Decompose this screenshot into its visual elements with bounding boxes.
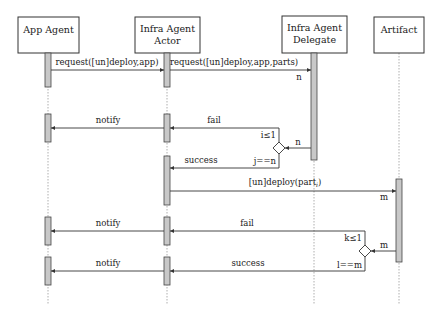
svg-text:n: n: [295, 137, 301, 147]
participant-label: App Agent: [22, 24, 74, 35]
activation-bar: [45, 257, 51, 285]
sequence-diagram: App Agent Infra Agent Actor Infra Agent …: [0, 0, 443, 318]
svg-text:m: m: [380, 240, 388, 250]
participant-label-line2: Actor: [153, 35, 181, 46]
decision-diamond: [359, 245, 371, 257]
activation-bar: [164, 114, 170, 142]
message-notify: notify: [51, 218, 164, 233]
decision-fail-success-delegate: fail i≤1 success j==n n: [170, 115, 311, 170]
svg-text:notify: notify: [96, 258, 121, 268]
participant-infra-agent-delegate: Infra Agent Delegate: [282, 16, 347, 53]
svg-text:m: m: [380, 192, 388, 202]
activation-bar: [45, 114, 51, 142]
svg-text:success: success: [184, 155, 217, 165]
svg-text:i≤1: i≤1: [261, 130, 276, 140]
message-request-deploy-app-parts: request([un]deploy,app,parts) n: [170, 57, 311, 82]
svg-text:request([un]deploy,app,parts): request([un]deploy,app,parts): [170, 57, 298, 67]
decision-fail-success-artifact: fail k≤1 success l==m m: [170, 218, 396, 273]
activation-bar: [311, 53, 317, 160]
participant-artifact: Artifact: [374, 17, 424, 53]
svg-text:[un]deploy(parti): [un]deploy(parti): [249, 177, 322, 188]
svg-text:l==m: l==m: [337, 260, 362, 270]
svg-text:success: success: [231, 258, 264, 268]
activation-bar: [45, 217, 51, 245]
svg-text:k≤1: k≤1: [344, 233, 362, 243]
activation-bar: [396, 179, 402, 262]
participant-label: Infra Agent: [287, 22, 342, 33]
svg-text:request([un]deploy,app): request([un]deploy,app): [55, 57, 158, 67]
participant-label: Infra Agent: [140, 23, 195, 34]
activation-bar: [164, 257, 170, 285]
activation-bar: [45, 53, 51, 87]
message-request-deploy-app: request([un]deploy,app): [51, 57, 164, 72]
participant-label-line2: Delegate: [293, 34, 336, 45]
svg-text:j==n: j==n: [253, 156, 277, 166]
message-notify: notify: [51, 115, 164, 130]
participant-label: Artifact: [380, 24, 418, 35]
message-notify: notify: [51, 258, 164, 273]
activation-bar: [164, 217, 170, 245]
svg-text:fail: fail: [207, 115, 221, 125]
participant-infra-agent-actor: Infra Agent Actor: [135, 17, 200, 53]
svg-text:fail: fail: [240, 218, 254, 228]
activation-bar: [164, 156, 170, 205]
svg-text:n: n: [296, 72, 302, 82]
svg-text:notify: notify: [96, 218, 121, 228]
message-deploy-part: [un]deploy(parti) m: [170, 177, 396, 202]
svg-text:notify: notify: [96, 115, 121, 125]
participant-app-agent: App Agent: [18, 17, 79, 53]
decision-diamond: [273, 142, 285, 154]
